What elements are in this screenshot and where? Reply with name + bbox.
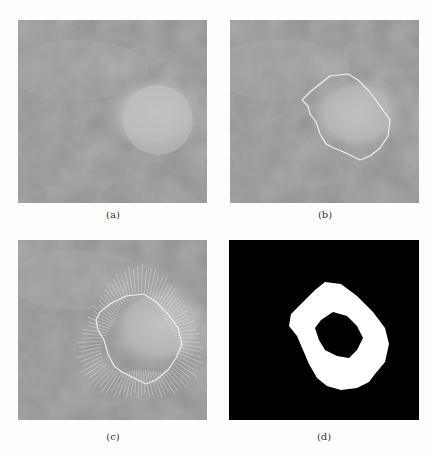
panel-c-label: (c) xyxy=(83,431,143,442)
panel-b-label: (b) xyxy=(295,209,355,220)
mammogram-image-c xyxy=(18,240,207,420)
binary-mask-image xyxy=(229,240,419,420)
panel-c-image xyxy=(18,240,207,420)
mammogram-image-b xyxy=(230,20,419,203)
panel-a-label: (a) xyxy=(83,209,143,220)
panel-a-image xyxy=(18,20,207,203)
panel-d-image xyxy=(229,240,419,420)
panel-b-image xyxy=(230,20,419,203)
panel-d-label: (d) xyxy=(294,431,354,442)
mammogram-image-a xyxy=(18,20,207,203)
